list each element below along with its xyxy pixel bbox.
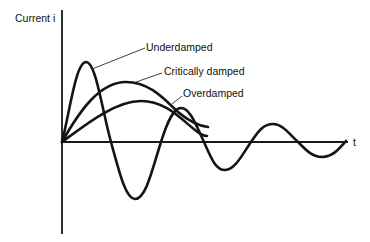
y-axis-label: Current i (15, 12, 55, 24)
x-axis-label: t (353, 136, 356, 148)
rlc-damping-diagram: Current i t Underdamped Critically dampe… (0, 0, 370, 242)
underdamped-leader (92, 48, 145, 69)
overdamped-leader (172, 96, 182, 104)
overdamped-label: Overdamped (183, 87, 244, 99)
critically-damped-label: Critically damped (164, 65, 245, 77)
underdamped-curve (62, 62, 346, 199)
underdamped-label: Underdamped (146, 41, 213, 53)
critically-damped-leader (136, 73, 162, 82)
